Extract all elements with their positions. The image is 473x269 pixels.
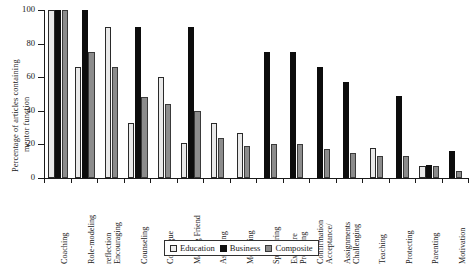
bar-education: [211, 123, 217, 178]
bar-education: [419, 166, 425, 178]
x-tick-15: [442, 179, 443, 183]
legend-label: Business: [230, 243, 261, 253]
bar-composite: [112, 67, 118, 178]
x-tick-8: [256, 179, 257, 183]
bar-group: [283, 10, 310, 178]
bar-education: [75, 67, 81, 178]
bar-group: [150, 10, 177, 178]
bar-group: [415, 10, 442, 178]
x-tick-5: [177, 179, 178, 183]
bar-group: [336, 10, 363, 178]
bar-business: [82, 10, 88, 178]
bar-group: [256, 10, 283, 178]
x-label-line: Acceptance/: [325, 224, 327, 264]
bar-business: [264, 52, 270, 178]
x-tick-0: [44, 179, 45, 183]
bar-group: [389, 10, 416, 178]
bar-education: [181, 143, 187, 178]
bar-education: [48, 10, 54, 178]
bar-composite: [141, 97, 147, 178]
x-label-line: Encouraging: [113, 222, 115, 264]
bar-group: [203, 10, 230, 178]
bar-composite: [271, 144, 277, 178]
y-tick-label-20: 20: [26, 138, 35, 148]
x-tick-14: [415, 179, 416, 183]
bar-composite: [194, 111, 200, 178]
bar-business: [449, 151, 455, 178]
bar-composite: [350, 153, 356, 178]
x-label-line: Parenting: [431, 233, 433, 264]
bar-composite: [297, 144, 303, 178]
y-tick-label-40: 40: [26, 105, 35, 115]
bar-business: [290, 52, 296, 178]
x-label-line: Counseling: [140, 227, 142, 264]
x-tick-7: [230, 179, 231, 183]
x-label-line: Protecting: [405, 230, 407, 264]
bar-education: [370, 148, 376, 178]
legend-label: Composite: [275, 243, 312, 253]
y-tick-label-60: 60: [26, 71, 35, 81]
bar-group: [362, 10, 389, 178]
bar-education: [105, 27, 111, 178]
bar-group: [97, 10, 124, 178]
legend-swatch-education-icon: [170, 245, 177, 252]
bar-composite: [218, 138, 224, 178]
bar-composite: [244, 146, 250, 178]
x-tick-10: [309, 179, 310, 183]
chart-legend: EducationBusinessComposite: [164, 240, 319, 256]
bar-group: [71, 10, 98, 178]
x-label-line: Teaching: [378, 234, 380, 264]
bar-business: [135, 27, 141, 178]
bar-business: [343, 82, 349, 178]
x-tick-1: [71, 179, 72, 183]
bar-group: [177, 10, 204, 178]
bar-education: [128, 123, 134, 178]
bar-business: [317, 67, 323, 178]
bar-group: [124, 10, 151, 178]
bar-composite: [88, 52, 94, 178]
y-axis-title: Percentage of articles containing mentor…: [0, 0, 26, 180]
bar-composite: [62, 10, 68, 178]
y-axis-title-line-1: Percentage of articles containing: [11, 59, 20, 172]
bar-composite: [165, 104, 171, 178]
x-label-line: Coaching: [60, 233, 62, 264]
bar-business: [55, 10, 61, 178]
bar-education: [158, 77, 164, 178]
y-tick-label-0: 0: [31, 172, 35, 182]
bar-education: [237, 133, 243, 178]
x-tick-11: [336, 179, 337, 183]
x-label-line: Assignments: [343, 222, 345, 264]
legend-label: Education: [180, 243, 215, 253]
x-tick-6: [203, 179, 204, 183]
bar-composite: [433, 166, 439, 178]
legend-item-education: Education: [170, 243, 215, 253]
bar-business: [426, 165, 432, 178]
bar-chart-figure: Percentage of articles containing mentor…: [0, 0, 473, 269]
x-label-line: Role-modeling: [87, 215, 89, 264]
y-tick-label-100: 100: [22, 4, 35, 14]
bar-composite: [377, 156, 383, 178]
x-tick-4: [150, 179, 151, 183]
legend-item-composite: Composite: [265, 243, 312, 253]
x-tick-9: [283, 179, 284, 183]
bar-business: [396, 96, 402, 178]
x-label-line: Challenging: [352, 224, 354, 264]
legend-swatch-business-icon: [220, 245, 227, 252]
bar-composite: [403, 156, 409, 178]
x-tick-3: [124, 179, 125, 183]
x-tick-13: [389, 179, 390, 183]
x-tick-2: [97, 179, 98, 183]
x-label-line: Motivation: [458, 228, 460, 264]
bar-group: [230, 10, 257, 178]
bar-composite: [324, 149, 330, 178]
plot-area: [44, 10, 468, 178]
bar-group: [44, 10, 71, 178]
bar-group: [442, 10, 469, 178]
x-tick-12: [362, 179, 363, 183]
bar-business: [188, 27, 194, 178]
legend-item-business: Business: [220, 243, 261, 253]
x-tick-16: [468, 179, 469, 183]
x-label-line: reflection: [104, 233, 106, 264]
bar-composite: [456, 171, 462, 178]
legend-swatch-composite-icon: [265, 245, 272, 252]
